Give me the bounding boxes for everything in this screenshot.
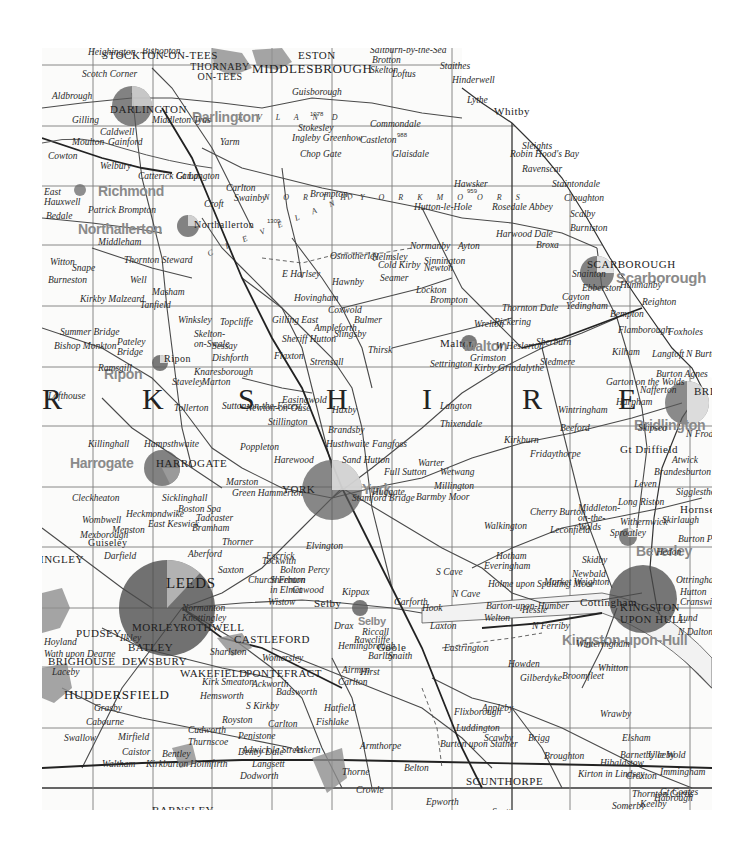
label-town: Dodworth (240, 772, 279, 782)
yorkshire-map[interactable]: R K S H I R E C L E V E L A N D N O R T … (42, 48, 712, 810)
label-town: N Dalton (678, 628, 712, 638)
label-town: Bedale (46, 212, 86, 222)
label-town: Masham (152, 288, 185, 298)
label-bridlington-town: BRIDLIN (694, 386, 712, 397)
overlay-selby: Selby (358, 616, 386, 627)
label-town: N Cave (452, 590, 522, 600)
label-town: Swainby (234, 194, 266, 204)
label-town: Winteringham (576, 640, 630, 650)
label-town: Hampsthwaite (144, 440, 199, 450)
label-town: Fangfoss (372, 440, 407, 450)
label-town: Hinderwell (452, 76, 495, 86)
label-town: Knottingley (182, 614, 226, 624)
label-hornsea: Hornsea (680, 504, 712, 515)
label-town: Osmotherley (330, 252, 379, 262)
label-town: Thirsk (368, 346, 392, 356)
label-town: Foxholes (668, 328, 703, 338)
label-town: Epworth (426, 798, 459, 808)
overlay-harrogate: Harrogate (70, 456, 133, 470)
label-town: Withernwick (620, 518, 668, 528)
label-town: Ramsgill (98, 364, 132, 374)
label-town: Guisborough (292, 88, 342, 98)
label-town: Cold Kirby (378, 261, 421, 271)
label-town: Lund (678, 614, 698, 624)
label-town: Thornton Steward (124, 256, 193, 266)
label-town: Kirby Grindalythe (474, 364, 544, 374)
label-town: Hawsker (454, 180, 488, 190)
label-town: Brigg (528, 734, 550, 744)
label-town: Welbury (100, 162, 131, 172)
label-town: East Hauxwell (44, 188, 84, 207)
label-town: Barlby (368, 652, 394, 662)
label-town: Gilling (72, 116, 99, 126)
label-town: Cabourne (86, 718, 124, 728)
label-town: Crowle (356, 786, 384, 796)
label-town: Armthorpe (360, 742, 401, 752)
label-town: Thornton Dale (502, 304, 558, 314)
label-pontefract: PONTEFRACT (246, 668, 322, 679)
label-town: Laceby (52, 668, 79, 678)
label-driffield: Gt Driffield (620, 444, 678, 455)
label-town: Atwick (672, 456, 698, 466)
label-town: Eastrington (444, 644, 489, 654)
label-town: Dishforth (212, 354, 248, 364)
label-batley: BATLEY (128, 642, 173, 653)
label-selby-town: Selby (314, 598, 342, 609)
label-morley: MORLEY (132, 622, 181, 633)
label-town: Ingleby Greenhow (292, 134, 362, 144)
label-town: Thorner (222, 538, 253, 548)
label-town: Reighton (642, 298, 676, 308)
label-town: Brandesburton (654, 468, 711, 478)
label-town: Marton (202, 378, 231, 388)
label-town: Lythe (467, 96, 488, 106)
county-letter-r2: R (522, 384, 542, 414)
label-town: Full Sutton (384, 468, 427, 478)
label-town: Escrick (266, 552, 306, 562)
label-town: Summer Bridge (60, 328, 119, 338)
label-town: Kirk Smeaton (202, 678, 254, 688)
label-town: Ottringham (676, 576, 712, 586)
label-town: Knaresborough (194, 368, 253, 378)
spot-height: 1309 (267, 218, 280, 224)
label-town: Gainford (108, 138, 142, 148)
label-town: Leconfield (550, 526, 590, 536)
label-town: Heckmondwike (126, 510, 184, 520)
label-town: Aberford (188, 550, 222, 560)
label-town: Grasby (94, 704, 122, 714)
label-town: Harpham (616, 398, 652, 408)
label-town: Hawnby (332, 278, 364, 288)
label-town: Kirkburton (146, 760, 188, 770)
label-town: Broughton (544, 752, 584, 762)
label-town: Broxa (536, 241, 559, 251)
label-town: Brompton (430, 296, 468, 306)
label-town: Holme upon Spalding Moor (488, 580, 594, 590)
overlay-richmond: Richmond (98, 184, 164, 198)
label-town: Glaisdale (392, 150, 429, 160)
label-town: Sherburn (536, 338, 571, 348)
label-town: Hirst (360, 668, 380, 678)
label-town: Flamborough (618, 326, 670, 336)
label-town: Strensall (310, 358, 343, 368)
label-town: Ayton (458, 242, 480, 252)
label-town: Loftus (392, 70, 416, 80)
label-town: Ilkley (120, 634, 141, 644)
label-town: Bishopton (142, 48, 181, 57)
label-town: Patrick Brompton (88, 206, 156, 216)
label-middlesbrough: MIDDLESBROUGH (252, 62, 372, 75)
label-town: Chop Gate (300, 150, 341, 160)
label-town: Robin Hood's Bay (510, 150, 579, 160)
label-ripon-town: Ripon (164, 354, 191, 364)
label-town: Croxton (626, 772, 657, 782)
label-harrogate-town: HARROGATE (156, 458, 227, 469)
label-town: Brandsby (328, 426, 364, 436)
label-town: Fridaythorpe (530, 450, 581, 460)
label-town: Kirkby Malzeard (80, 295, 144, 305)
label-town: Tanfield (140, 301, 171, 311)
label-town: Kippax (342, 588, 369, 598)
county-letter-k: K (142, 384, 164, 414)
label-town: Broomfleet (562, 672, 604, 682)
label-town: N Ferriby (532, 622, 570, 632)
label-town: Hutton-le-Hole (414, 203, 472, 213)
label-town: Normanby (410, 242, 450, 252)
label-town: Sigglesthorne (676, 488, 712, 498)
